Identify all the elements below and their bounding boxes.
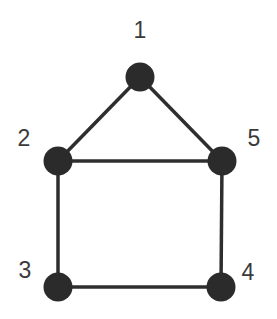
node-5: [208, 147, 237, 176]
node-3: [44, 273, 73, 302]
node-label-2: 2: [18, 125, 31, 151]
node-label-5: 5: [248, 125, 261, 151]
node-label-4: 4: [242, 259, 255, 285]
node-label-3: 3: [19, 257, 32, 283]
node-4: [207, 273, 236, 302]
node-1: [126, 63, 155, 92]
edge-5-4: [221, 161, 222, 287]
nodes: [44, 63, 237, 302]
node-2: [44, 147, 73, 176]
edges: [58, 77, 222, 287]
graph-diagram: 12345: [0, 0, 277, 319]
edge-1-5: [140, 77, 222, 161]
node-label-1: 1: [134, 17, 147, 43]
edge-1-2: [58, 77, 140, 161]
